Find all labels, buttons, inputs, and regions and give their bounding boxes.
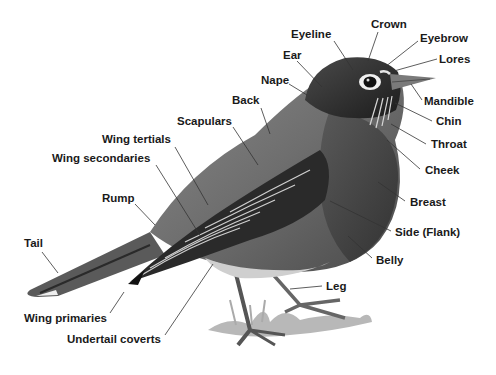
- label-lores: Lores: [439, 53, 470, 65]
- leader-line-rump: [135, 204, 155, 225]
- label-undertail-coverts: Undertail coverts: [67, 333, 161, 345]
- label-mandible: Mandible: [424, 95, 474, 107]
- leader-line-tail: [42, 252, 58, 273]
- label-wing-secondaries: Wing secondaries: [52, 152, 150, 164]
- label-scapulars: Scapulars: [177, 115, 232, 127]
- label-belly: Belly: [376, 254, 404, 266]
- label-chin: Chin: [436, 115, 462, 127]
- leader-line-crown: [368, 32, 378, 61]
- label-ear: Ear: [283, 49, 302, 61]
- label-nape: Nape: [261, 74, 289, 86]
- label-rump: Rump: [102, 192, 135, 204]
- label-leg: Leg: [326, 280, 346, 292]
- leader-line-wing-primaries: [110, 292, 124, 313]
- label-side-flank: Side (Flank): [395, 226, 460, 238]
- grass-tuft: [208, 300, 372, 337]
- bird-anatomy-diagram: CrownEyelineEyebrowEarLoresNapeMandibleB…: [0, 0, 496, 375]
- leader-line-lores: [394, 59, 437, 71]
- label-tail: Tail: [24, 237, 43, 249]
- leader-line-leg: [290, 286, 322, 289]
- label-breast: Breast: [410, 196, 446, 208]
- leader-line-mandible: [411, 84, 422, 100]
- tail-shape: [27, 232, 165, 297]
- leader-line-undertail-coverts: [165, 264, 213, 335]
- label-throat: Throat: [431, 138, 467, 150]
- leader-line-eyebrow: [385, 41, 418, 67]
- label-eyebrow: Eyebrow: [420, 32, 468, 44]
- label-cheek: Cheek: [425, 164, 460, 176]
- label-eyeline: Eyeline: [291, 28, 331, 40]
- leader-line-nape: [289, 84, 307, 95]
- label-crown: Crown: [371, 18, 407, 30]
- label-wing-primaries: Wing primaries: [24, 312, 107, 324]
- label-wing-tertials: Wing tertials: [102, 133, 171, 145]
- label-back: Back: [232, 94, 260, 106]
